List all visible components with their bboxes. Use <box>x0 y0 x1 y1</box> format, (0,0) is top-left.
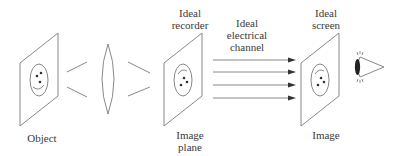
label-image-plane-line1: Image <box>160 129 220 141</box>
screen-plane <box>301 33 339 126</box>
label-ideal-screen: Ideal screen <box>296 7 356 31</box>
label-object: Object <box>20 132 64 144</box>
label-channel-line1: Ideal <box>212 17 282 29</box>
object-plane <box>20 33 58 126</box>
label-image-plane-line2: plane <box>160 141 220 153</box>
arrowhead-icons <box>288 58 296 101</box>
rays-lens-to-recorder <box>128 62 150 96</box>
lens <box>102 44 114 114</box>
label-channel-line3: channel <box>212 41 282 53</box>
object-face-outline <box>30 64 48 96</box>
label-channel-line2: electrical <box>212 29 282 41</box>
channel-arrows <box>213 60 290 98</box>
observer-eye-icon <box>357 51 384 83</box>
label-recorder-line1: Ideal <box>160 7 220 19</box>
recorder-face-smile <box>178 70 187 74</box>
object-face-eyes <box>36 72 43 84</box>
label-recorder-line2: recorder <box>160 19 220 31</box>
label-screen-line1: Ideal <box>296 7 356 19</box>
recorder-face-eyes <box>180 77 189 87</box>
eye-pupil <box>355 59 360 75</box>
screen-face-eyes <box>317 77 326 87</box>
screen-face-outline <box>311 64 329 96</box>
recorder-plane <box>164 33 202 126</box>
recorder-face-outline <box>174 64 192 96</box>
label-ideal-electrical-channel: Ideal electrical channel <box>212 17 282 53</box>
label-ideal-recorder: Ideal recorder <box>160 7 220 31</box>
label-screen-line2: screen <box>296 19 356 31</box>
label-image-text: Image <box>296 129 356 141</box>
label-image: Image <box>296 129 356 141</box>
label-object-text: Object <box>20 132 64 144</box>
label-image-plane: Image plane <box>160 129 220 153</box>
rays-object-to-lens <box>67 62 87 97</box>
object-face-smile <box>33 85 44 89</box>
screen-face-smile <box>315 70 324 74</box>
